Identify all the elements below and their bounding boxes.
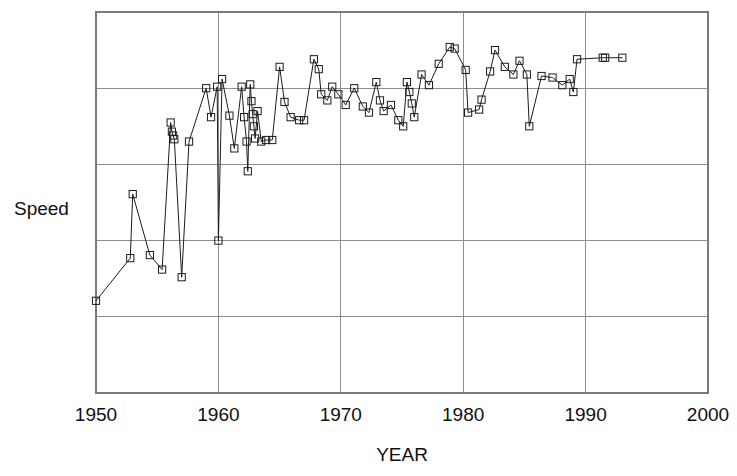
x-axis-title: YEAR	[376, 444, 428, 465]
x-axis-tick-labels: 195019601970198019902000	[75, 404, 729, 425]
plot-frame	[96, 12, 708, 393]
plot-gridlines	[96, 12, 708, 393]
x-tick-label: 2000	[687, 404, 729, 425]
x-tick-label: 1950	[75, 404, 117, 425]
y-axis-title: Speed	[14, 198, 69, 219]
chart-container: 195019601970198019902000 YEAR Speed	[0, 0, 737, 476]
x-tick-label: 1970	[320, 404, 362, 425]
x-tick-label: 1990	[564, 404, 606, 425]
scatter-line-chart: 195019601970198019902000 YEAR Speed	[0, 0, 737, 476]
speed-series-line	[96, 47, 622, 301]
x-tick-label: 1960	[197, 404, 239, 425]
x-tick-label: 1980	[442, 404, 484, 425]
speed-series-markers	[92, 43, 626, 304]
